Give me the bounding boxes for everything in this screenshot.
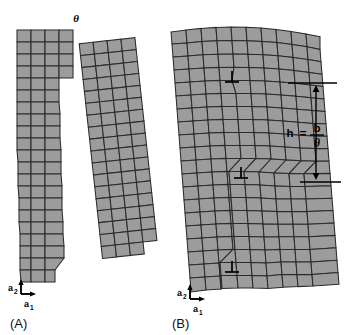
- a2-subscript-a: 2: [14, 288, 18, 295]
- a1-subscript-b: 1: [199, 309, 203, 316]
- height-equals: =: [300, 127, 307, 139]
- theta-label: θ: [73, 12, 79, 24]
- crystal-lattice-figure: θ a 2 a 1 (A): [0, 0, 345, 335]
- height-numerator: b: [313, 122, 320, 134]
- height-denominator: θ: [314, 137, 320, 149]
- panel-a-right-block: [79, 38, 158, 259]
- height-symbol: h: [286, 127, 293, 139]
- panel-a-left-block: [17, 30, 73, 282]
- panel-a: θ a 2 a 1 (A): [8, 12, 158, 331]
- a1-arrowhead-b: [199, 296, 205, 301]
- panel-b: h = b θ a 2 a 1 (B): [171, 27, 341, 331]
- basis-vectors-a: a 2 a 1: [8, 279, 36, 311]
- theta-angle-marker: θ: [73, 12, 79, 24]
- panel-b-label: (B): [172, 316, 189, 331]
- a1-arrowhead-a: [30, 291, 36, 296]
- lattice-cells-b: [171, 27, 339, 292]
- lattice-cells-a-left: [17, 30, 73, 282]
- lattice-cells-a-right: [79, 38, 158, 259]
- panel-a-label: (A): [10, 316, 27, 331]
- a2-subscript-b: 2: [183, 293, 187, 300]
- a1-subscript-a: 1: [30, 304, 34, 311]
